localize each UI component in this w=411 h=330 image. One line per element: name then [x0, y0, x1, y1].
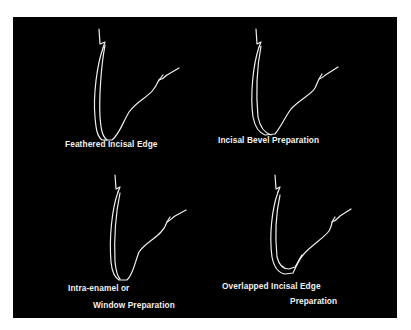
label-overlapped-incisal-edge: Overlapped Incisal Edge: [222, 281, 321, 291]
diagram-panel: Feathered Incisal Edge Incisal Bevel Pre…: [13, 17, 397, 318]
tooth-drawing-overlapped: [13, 17, 397, 318]
label-overlapped-preparation: Preparation: [290, 296, 337, 306]
